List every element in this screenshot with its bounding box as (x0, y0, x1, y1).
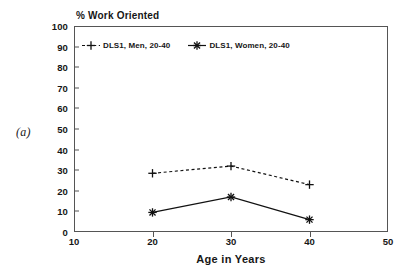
data-point-marker (148, 208, 156, 216)
data-point-marker (305, 215, 313, 223)
chart-data-layer (0, 0, 414, 280)
data-point-marker (148, 169, 156, 177)
figure-panel: (a) % Work Oriented 01020304050607080901… (0, 0, 414, 280)
data-point-marker (227, 162, 235, 170)
series-2 (148, 193, 313, 224)
data-point-marker (305, 180, 313, 188)
data-point-marker (227, 193, 235, 201)
series-1 (148, 162, 313, 189)
